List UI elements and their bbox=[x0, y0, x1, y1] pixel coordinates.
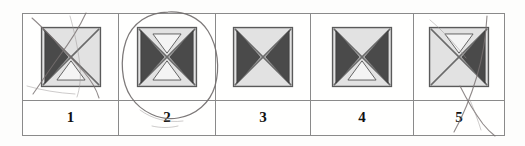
symbol-5-icon bbox=[427, 25, 491, 89]
answer-label-1: 1 bbox=[67, 110, 75, 125]
answer-sheet: 1 2 3 4 5 bbox=[0, 0, 525, 146]
answer-label-3: 3 bbox=[259, 110, 267, 125]
answer-label-cell-4[interactable]: 4 bbox=[311, 101, 414, 135]
answer-label-4: 4 bbox=[358, 110, 366, 125]
answer-cell-2[interactable] bbox=[119, 14, 216, 100]
symbol-row bbox=[23, 14, 504, 100]
label-row: 1 2 3 4 5 bbox=[23, 100, 504, 135]
answer-strip-table: 1 2 3 4 5 bbox=[22, 13, 505, 136]
symbol-1-icon bbox=[39, 25, 103, 89]
answer-label-cell-2[interactable]: 2 bbox=[119, 101, 216, 135]
answer-label-5: 5 bbox=[455, 110, 463, 125]
answer-label-cell-5[interactable]: 5 bbox=[414, 101, 504, 135]
answer-label-cell-1[interactable]: 1 bbox=[23, 101, 119, 135]
answer-cell-1[interactable] bbox=[23, 14, 119, 100]
symbol-2-icon bbox=[135, 25, 199, 89]
answer-label-cell-3[interactable]: 3 bbox=[216, 101, 311, 135]
symbol-4-icon bbox=[330, 25, 394, 89]
answer-label-2: 2 bbox=[163, 110, 171, 125]
answer-cell-3[interactable] bbox=[216, 14, 311, 100]
answer-cell-5[interactable] bbox=[414, 14, 504, 100]
answer-cell-4[interactable] bbox=[311, 14, 414, 100]
symbol-3-icon bbox=[231, 25, 295, 89]
